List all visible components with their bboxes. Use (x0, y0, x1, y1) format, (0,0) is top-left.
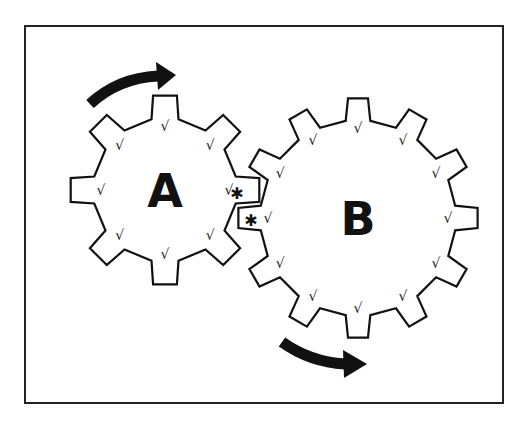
check-mark-icon: √ (444, 210, 453, 226)
check-mark-icon: √ (276, 255, 285, 271)
check-mark-icon: √ (115, 137, 124, 153)
contact-marker-b: ✱ (244, 211, 257, 230)
arrow-shaft-icon (282, 342, 345, 364)
check-mark-icon: √ (309, 132, 318, 148)
check-mark-icon: √ (431, 165, 440, 181)
check-mark-icon: √ (354, 300, 363, 316)
arrow-shaft-icon (90, 76, 158, 104)
check-mark-icon: √ (161, 118, 170, 134)
check-mark-icon: √ (431, 255, 440, 271)
arrowhead-icon (156, 62, 176, 90)
gear-b: √√√√√√√√√√√√ B (238, 98, 477, 337)
check-mark-icon: √ (309, 288, 318, 304)
check-mark-icon: √ (206, 227, 215, 243)
check-mark-icon: √ (276, 165, 285, 181)
arrowhead-icon (343, 350, 367, 378)
check-mark-icon: √ (97, 182, 106, 198)
gear-a-label: A (147, 164, 183, 218)
check-mark-icon: √ (161, 246, 170, 262)
check-mark-icon: √ (206, 137, 215, 153)
gear-diagram: √√√√√√√√ A √√√√√√√√√√√√ B ✱ ✱ (0, 0, 528, 427)
gear-b-counterclockwise-arrow (282, 342, 367, 378)
gear-b-label: B (340, 192, 375, 246)
contact-marker-a: ✱ (230, 184, 243, 203)
check-mark-icon: √ (399, 288, 408, 304)
check-mark-icon: √ (264, 210, 273, 226)
check-mark-icon: √ (399, 132, 408, 148)
check-mark-icon: √ (115, 227, 124, 243)
check-mark-icon: √ (354, 120, 363, 136)
